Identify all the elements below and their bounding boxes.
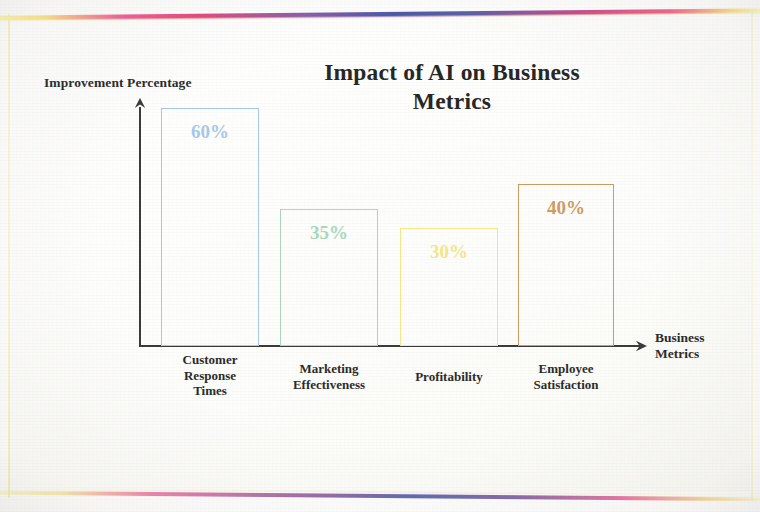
bar-marketing-effectiveness[interactable]: 35% [280,209,378,346]
tick-label-line: Response [152,368,268,384]
x-tick-label-marketing-effectiveness: Marketing Effectiveness [266,361,392,392]
tick-label-line: Employee [505,361,627,377]
x-axis-label: Business Metrics [655,330,755,362]
tick-label-line: Satisfaction [505,377,627,393]
y-axis-arrow-icon [131,97,149,115]
x-tick-label-employee-satisfaction: Employee Satisfaction [505,361,627,392]
bar-value-label: 30% [401,241,497,263]
tick-label-line: Effectiveness [266,377,392,393]
bar-employee-satisfaction[interactable]: 40% [518,184,614,346]
bar-value-label: 60% [162,121,258,143]
chart-title-line-1: Impact of AI on Business [256,58,648,87]
x-axis-label-line-1: Business [655,330,755,346]
x-axis-arrow-icon [628,336,648,356]
chart-title-line-2: Metrics [256,87,648,116]
x-axis-label-line-2: Metrics [655,346,755,362]
bar-value-label: 40% [519,197,613,219]
bar-profitability[interactable]: 30% [400,228,498,346]
x-tick-label-profitability: Profitability [392,369,506,385]
y-axis-label: Improvement Percentage [44,75,192,91]
chart-title: Impact of AI on Business Metrics [256,58,648,116]
bar-chart: Impact of AI on Business Metrics Improve… [0,0,760,512]
tick-label-line: Marketing [266,361,392,377]
y-axis-line [139,107,141,347]
bar-customer-response-times[interactable]: 60% [161,108,259,346]
tick-label-line: Customer [152,352,268,368]
scanned-chart-page: Impact of AI on Business Metrics Improve… [0,0,760,512]
bar-value-label: 35% [281,222,377,244]
tick-label-line: Profitability [392,369,506,385]
tick-label-line: Times [152,383,268,399]
x-tick-label-customer-response-times: Customer Response Times [152,352,268,399]
